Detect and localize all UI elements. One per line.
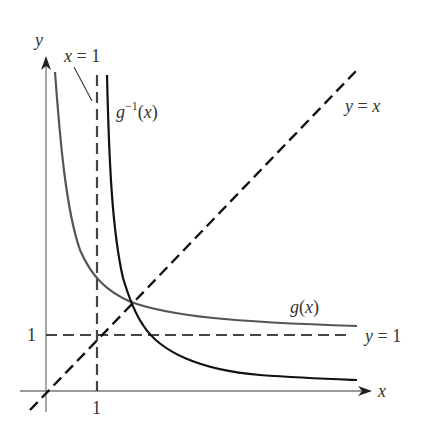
y-equals-x-label: y = x: [343, 96, 380, 116]
identity-line-y-equals-x: [30, 70, 357, 410]
x-tick-1: 1: [92, 398, 101, 418]
y-axis-label: y: [33, 30, 43, 50]
g-label: g(x): [290, 297, 319, 318]
curve-g: [55, 72, 357, 326]
x-equals-1-label: x = 1: [63, 46, 100, 66]
g-inverse-label: g−1(x): [116, 99, 158, 123]
x-axis-label: x: [377, 381, 386, 401]
y-tick-1: 1: [27, 325, 36, 345]
function-inverse-graph: y x x = 1 g−1(x) y = x g(x) y = 1 1 1: [0, 0, 424, 429]
y-equals-1-label: y = 1: [363, 326, 401, 346]
x-equals-1-leader: [74, 67, 92, 101]
